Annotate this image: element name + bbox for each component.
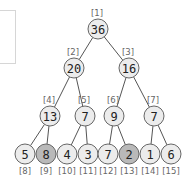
tree-node: 36[1] — [88, 8, 108, 39]
node-index-label: [13] — [120, 166, 137, 176]
tree-edge — [118, 125, 126, 144]
tree-node: 6[15] — [161, 144, 181, 176]
node-index-label: [5] — [78, 95, 90, 105]
node-index-label: [9] — [40, 166, 52, 176]
tree-node: 9[6] — [104, 95, 124, 126]
node-value: 1 — [146, 148, 153, 162]
node-value: 7 — [81, 110, 88, 124]
tree-edge — [71, 125, 80, 145]
node-index-label: [3] — [122, 47, 134, 57]
node-value: 36 — [91, 23, 105, 37]
node-value: 4 — [63, 148, 70, 162]
tree-node: 13[4] — [40, 95, 60, 126]
node-index-label: [15] — [162, 166, 179, 176]
tree-edge — [104, 37, 123, 60]
node-index-label: [7] — [147, 95, 159, 105]
node-index-label: [14] — [141, 166, 158, 176]
node-value: 16 — [122, 62, 136, 76]
tree-edge — [151, 126, 153, 144]
tree-node: 5[8] — [15, 144, 35, 176]
tree-node: 4[10] — [57, 144, 77, 176]
tree-node: 20[2] — [64, 47, 84, 78]
node-index-label: [10] — [58, 166, 75, 176]
node-value: 7 — [104, 148, 111, 162]
tree-node: 7[5] — [75, 95, 95, 126]
node-value: 7 — [150, 110, 157, 124]
node-index-label: [6] — [107, 95, 119, 105]
node-value: 20 — [67, 62, 81, 76]
tree-node: 2[13] — [119, 144, 139, 176]
node-index-label: [4] — [43, 95, 55, 105]
node-index-label: [8] — [19, 166, 31, 176]
tree-node: 16[3] — [119, 47, 139, 78]
tree-node: 7[12] — [98, 144, 118, 176]
node-index-label: [1] — [91, 8, 103, 18]
node-value: 2 — [125, 148, 132, 162]
tree-nodes: 36[1]20[2]16[3]13[4]7[5]9[6]7[7]5[8]8[9]… — [15, 8, 181, 176]
node-value: 13 — [43, 110, 57, 124]
tree-edge — [79, 38, 93, 60]
node-index-label: [2] — [67, 47, 79, 57]
tree-node: 3[11] — [78, 144, 98, 176]
binary-tree-diagram: 36[1]20[2]16[3]13[4]7[5]9[6]7[7]5[8]8[9]… — [0, 0, 194, 184]
node-value: 5 — [21, 148, 28, 162]
node-index-label: [12] — [99, 166, 116, 176]
tree-edge — [30, 124, 44, 145]
tree-edge — [54, 77, 69, 107]
tree-edge — [47, 126, 49, 144]
node-value: 9 — [110, 110, 117, 124]
tree-edge — [110, 126, 113, 144]
node-value: 3 — [84, 148, 91, 162]
tree-edges — [30, 37, 166, 146]
tree-edge — [86, 126, 87, 144]
node-index-label: [11] — [79, 166, 96, 176]
tree-node: 8[9] — [36, 144, 56, 176]
node-value: 6 — [167, 148, 174, 162]
tree-node: 1[14] — [140, 144, 160, 176]
node-value: 8 — [42, 148, 49, 162]
tree-node: 7[7] — [144, 95, 164, 126]
tree-edge — [158, 125, 167, 145]
